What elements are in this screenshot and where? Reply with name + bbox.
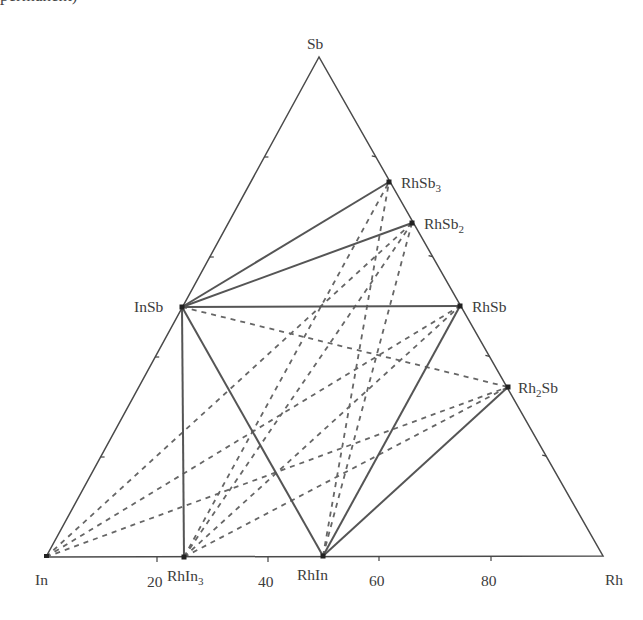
phase-label-RhIn3: RhIn3 [167, 567, 204, 587]
labels: 20406080SbInRhInSbRhSb3RhSb2RhSbRh2SbRhI… [35, 35, 623, 590]
phase-point-Rh2Sb [506, 385, 511, 390]
phase-label-RhSb3: RhSb3 [401, 174, 441, 194]
tick-label: 60 [369, 572, 385, 589]
dashed-tie-line-In-Rh2Sb [46, 387, 508, 557]
phase-label-RhIn: RhIn [297, 566, 328, 583]
dashed-tie-line-RhIn-RhSb2 [323, 223, 412, 556]
tick-label: 80 [481, 572, 497, 589]
phase-point-RhIn [321, 554, 326, 559]
phase-label-RhSb: RhSb [472, 298, 507, 315]
vertex-point-In [44, 554, 49, 558]
tie-line-InSb-RhIn [182, 307, 323, 556]
phase-label-InSb: InSb [134, 298, 164, 315]
phase-point-RhIn3 [182, 555, 187, 560]
dashed-tie-line-RhIn3-RhSb [184, 306, 460, 557]
vertex-label-Sb: Sb [307, 35, 324, 52]
phase-label-RhSb2: RhSb2 [424, 215, 464, 235]
phase-point-RhSb [458, 304, 463, 309]
phase-point-InSb [180, 305, 185, 310]
tie-line-InSb-RhSb3 [182, 182, 389, 307]
ternary-phase-diagram: 20406080SbInRhInSbRhSb3RhSb2RhSbRh2SbRhI… [0, 0, 643, 620]
tie-line-RhIn-RhSb [323, 306, 460, 556]
dashed-tie-line-RhIn3-RhSb3 [184, 182, 389, 557]
tie-line-InSb-RhSb [182, 306, 460, 307]
tie-line-InSb-RhIn3 [182, 307, 184, 557]
axis-ticks [101, 156, 547, 562]
phase-points [44, 180, 511, 560]
phase-point-RhSb3 [387, 180, 392, 185]
dashed-tie-line-RhIn3-Rh2Sb [184, 387, 508, 557]
phase-point-RhSb2 [410, 221, 415, 226]
vertex-label-Rh: Rh [605, 571, 623, 588]
tie-line-RhIn-Rh2Sb [323, 387, 508, 556]
tie-line-InSb-RhSb2 [182, 223, 412, 307]
solid-tie-lines [182, 182, 508, 557]
phase-label-Rh2Sb: Rh2Sb [518, 379, 558, 399]
tick-label: 20 [147, 573, 163, 590]
dashed-tie-lines [46, 182, 508, 557]
vertex-label-In: In [35, 571, 48, 588]
tick-label: 40 [258, 573, 274, 590]
